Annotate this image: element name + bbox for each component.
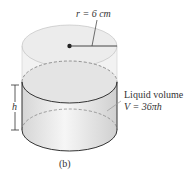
liquid-label-1: Liquid volume: [124, 90, 183, 100]
liquid-body: [22, 61, 117, 151]
cylinder-diagram: [0, 0, 191, 173]
radius-label: r = 6 cm: [76, 9, 111, 19]
caption: (b): [59, 159, 71, 169]
liquid-label-2: V = 36πh: [124, 102, 162, 112]
height-label: h: [12, 102, 17, 112]
